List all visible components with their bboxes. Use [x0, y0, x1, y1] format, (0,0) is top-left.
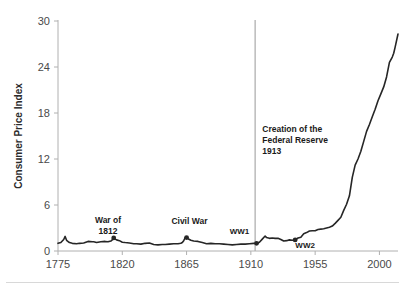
x-tick-label-1820: 1820: [110, 258, 134, 270]
ww1-label: WW1: [230, 227, 250, 236]
y-tick-label-6: 6: [44, 199, 50, 211]
chart-canvas: 30 24 18 12 6 0 1775 1820 1865 1910 1955…: [0, 0, 405, 289]
y-tick-label-30: 30: [38, 15, 50, 27]
fed-reserve-label-line2: Federal Reserve: [262, 135, 328, 145]
war-of-1812-label-line1: War of: [95, 215, 121, 225]
y-tick-label-0: 0: [44, 245, 50, 257]
y-tick-label-24: 24: [38, 61, 50, 73]
marker-civil-war: [184, 235, 189, 240]
annotation-war-of-1812: War of 1812: [95, 215, 121, 236]
x-tick-label-2000: 2000: [367, 258, 391, 270]
war-of-1812-label-line2: 1812: [99, 226, 118, 236]
x-tick-label-1865: 1865: [174, 258, 198, 270]
x-tick-label-1910: 1910: [239, 258, 263, 270]
fed-reserve-label-line3: 1913: [262, 146, 281, 156]
y-axis-title: Consumer Price Index: [13, 83, 24, 189]
y-tick-label-12: 12: [38, 153, 50, 165]
ww2-label: WW2: [295, 241, 315, 250]
x-tick-label-1775: 1775: [46, 258, 70, 270]
marker-ww1: [254, 241, 259, 246]
x-tick-label-1955: 1955: [303, 258, 327, 270]
chart-background: [0, 0, 405, 289]
y-tick-label-18: 18: [38, 107, 50, 119]
civil-war-label: Civil War: [171, 216, 208, 226]
fed-reserve-label-line1: Creation of the: [262, 124, 322, 134]
cpi-line-chart: 30 24 18 12 6 0 1775 1820 1865 1910 1955…: [0, 0, 405, 289]
